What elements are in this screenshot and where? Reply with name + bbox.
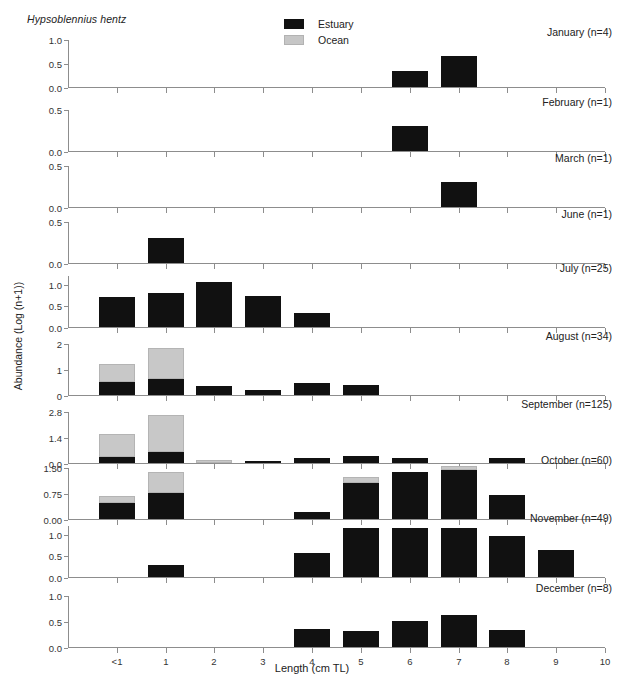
x-tick xyxy=(556,88,557,93)
panel-title-september: September (n=125) xyxy=(521,398,612,410)
y-tick-label: 2.8 xyxy=(49,407,62,418)
y-tick xyxy=(64,648,68,649)
y-tick xyxy=(64,328,68,329)
y-tick xyxy=(64,396,68,397)
bar xyxy=(343,385,379,395)
bar-segment-estuary xyxy=(294,629,330,647)
plot-area-february: 0.00.5 xyxy=(68,110,605,152)
y-tick-label: 0.5 xyxy=(49,105,62,116)
plot-area-november: 0.00.51.0 xyxy=(68,526,605,578)
bar xyxy=(441,528,477,577)
bar-segment-estuary xyxy=(343,528,379,577)
y-tick-label: 0.5 xyxy=(49,217,62,228)
bar-segment-estuary xyxy=(99,297,135,327)
y-tick xyxy=(64,40,68,41)
plot-area-july: 0.00.51.0 xyxy=(68,276,605,328)
y-tick xyxy=(64,494,68,495)
y-tick-label: 1.50 xyxy=(44,463,63,474)
panel-title-june: June (n=1) xyxy=(562,208,613,220)
panel-january: January (n=4)0.00.51.0 xyxy=(0,26,624,98)
y-tick-label: 1.4 xyxy=(49,433,62,444)
x-axis-line xyxy=(68,87,605,88)
panel-title-march: March (n=1) xyxy=(555,152,612,164)
y-tick xyxy=(64,622,68,623)
bar xyxy=(392,528,428,577)
bar xyxy=(245,390,281,395)
y-tick-label: 0.0 xyxy=(49,643,62,654)
x-tick xyxy=(117,88,118,93)
bar-segment-estuary xyxy=(99,382,135,395)
x-tick xyxy=(459,88,460,93)
bar xyxy=(99,297,135,327)
y-axis-line xyxy=(68,526,69,578)
bar xyxy=(294,553,330,577)
x-tick xyxy=(263,88,264,93)
x-tick xyxy=(214,88,215,93)
bar xyxy=(441,615,477,647)
bar xyxy=(148,238,184,263)
y-tick-label: 0.5 xyxy=(49,59,62,70)
x-axis-line xyxy=(68,577,605,578)
bar-segment-estuary xyxy=(148,293,184,327)
bar xyxy=(148,565,184,577)
bar xyxy=(245,296,281,327)
y-tick xyxy=(64,222,68,223)
x-tick xyxy=(605,88,606,93)
bar xyxy=(489,630,525,647)
y-axis-line xyxy=(68,40,69,88)
species-title: Hypsoblennius hentz xyxy=(27,13,126,25)
y-axis-line xyxy=(68,110,69,152)
bar xyxy=(441,56,477,87)
bar-segment-ocean xyxy=(148,415,184,452)
bar-segment-estuary xyxy=(196,386,232,395)
plot-area-march: 0.00.5 xyxy=(68,166,605,208)
y-axis-line xyxy=(68,344,69,396)
panel-title-july: July (n=25) xyxy=(560,262,612,274)
bar-segment-estuary xyxy=(489,630,525,647)
y-tick-label: 0.0 xyxy=(49,83,62,94)
y-tick xyxy=(64,110,68,111)
bar-segment-estuary xyxy=(392,71,428,87)
bar xyxy=(99,364,135,395)
y-tick xyxy=(64,64,68,65)
y-tick-label: 1.0 xyxy=(49,35,62,46)
bar xyxy=(294,383,330,395)
bar-segment-ocean xyxy=(148,472,184,493)
panel-december: December (n=8)0.00.51.0<112345678910 xyxy=(0,582,624,658)
panel-title-february: February (n=1) xyxy=(542,96,612,108)
bar-segment-estuary xyxy=(538,550,574,577)
bar-segment-estuary xyxy=(392,126,428,151)
bar xyxy=(538,550,574,577)
y-tick-label: 0.5 xyxy=(49,551,62,562)
x-tick xyxy=(605,648,606,653)
bar-segment-estuary xyxy=(343,631,379,647)
y-tick xyxy=(64,556,68,557)
y-tick xyxy=(64,166,68,167)
panel-title-december: December (n=8) xyxy=(536,582,612,594)
bar xyxy=(441,182,477,207)
bar-segment-estuary xyxy=(148,565,184,577)
y-tick xyxy=(64,306,68,307)
plot-area-june: 0.00.5 xyxy=(68,222,605,264)
y-axis-line xyxy=(68,166,69,208)
x-tick xyxy=(263,648,264,653)
bar-segment-estuary xyxy=(441,182,477,207)
bar xyxy=(489,536,525,577)
bar-segment-estuary xyxy=(148,379,184,395)
plot-area-august: 012 xyxy=(68,344,605,396)
bar-segment-estuary xyxy=(294,383,330,395)
y-tick-label: 0.5 xyxy=(49,161,62,172)
bar-segment-estuary xyxy=(441,528,477,577)
bar xyxy=(343,631,379,647)
bar-segment-estuary xyxy=(392,528,428,577)
bar xyxy=(196,282,232,327)
bar-segment-estuary xyxy=(196,282,232,327)
y-tick-label: 0.5 xyxy=(49,617,62,628)
plot-area-january: 0.00.51.0 xyxy=(68,40,605,88)
bar-segment-estuary xyxy=(245,296,281,327)
y-tick-label: 1.0 xyxy=(49,529,62,540)
bar xyxy=(392,71,428,87)
y-tick xyxy=(64,596,68,597)
bar-segment-ocean xyxy=(99,364,135,382)
bar xyxy=(392,621,428,647)
